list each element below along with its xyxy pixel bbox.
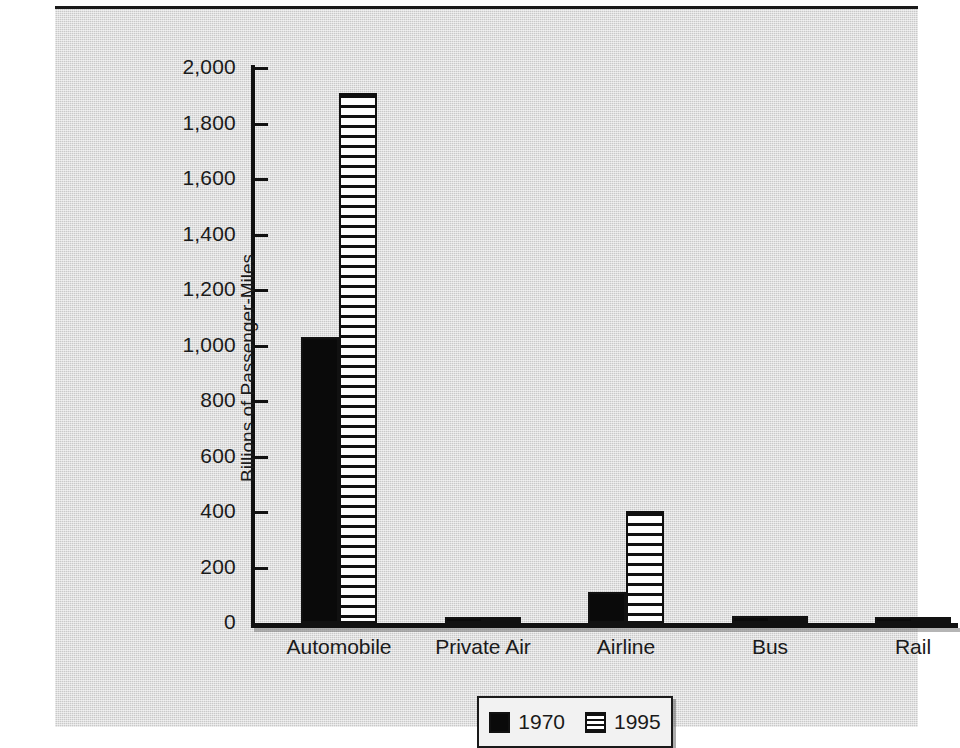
bar-rail-1995 bbox=[913, 617, 951, 623]
plot-area: 2,0001,8001,6001,4001,2001,0008006004002… bbox=[251, 68, 958, 623]
bar-bus-1970 bbox=[732, 616, 770, 623]
y-axis-tick-label: 1,800 bbox=[182, 110, 236, 134]
bar-group bbox=[301, 68, 377, 623]
x-axis-label-private-air: Private Air bbox=[403, 635, 563, 659]
legend-entry-1970: 1970 bbox=[489, 710, 565, 734]
x-axis-label-bus: Bus bbox=[690, 635, 850, 659]
chart-panel: 2,0001,8001,6001,4001,2001,0008006004002… bbox=[55, 6, 918, 727]
y-axis-tick-label: 1,600 bbox=[182, 166, 236, 190]
chart-legend: 19701995 bbox=[477, 696, 673, 748]
bar-bus-1995 bbox=[770, 616, 808, 623]
y-axis-tick-label: 1,000 bbox=[182, 332, 236, 356]
bar-group bbox=[875, 68, 951, 623]
legend-label: 1995 bbox=[614, 710, 661, 734]
x-axis-shadow bbox=[254, 628, 960, 632]
striped-swatch-icon bbox=[585, 712, 606, 733]
bar-automobile-1995 bbox=[339, 93, 377, 623]
y-axis-tick: 1,600 bbox=[255, 178, 268, 181]
bar-airline-1995 bbox=[626, 511, 664, 623]
y-axis-tick-label: 600 bbox=[200, 443, 236, 467]
bar-airline-1970 bbox=[588, 592, 626, 623]
legend-label: 1970 bbox=[518, 710, 565, 734]
y-axis-tick-label: 1,200 bbox=[182, 277, 236, 301]
y-axis-tick-label: 0 bbox=[224, 610, 236, 634]
y-axis-tick-label: 800 bbox=[200, 388, 236, 412]
bar-private-air-1995 bbox=[483, 617, 521, 623]
bar-group bbox=[588, 68, 664, 623]
bar-rail-1970 bbox=[875, 617, 913, 623]
y-axis-tick: 1,400 bbox=[255, 234, 268, 237]
bar-automobile-1970 bbox=[301, 337, 339, 623]
y-axis-tick-label: 200 bbox=[200, 554, 236, 578]
legend-entry-1995: 1995 bbox=[585, 710, 661, 734]
y-axis-title: Billions of Passenger-Miles bbox=[237, 254, 259, 482]
y-axis-tick-label: 1,400 bbox=[182, 221, 236, 245]
bar-group bbox=[445, 68, 521, 623]
y-axis-tick-label: 2,000 bbox=[182, 55, 236, 79]
y-axis-tick: 400 bbox=[255, 511, 268, 514]
bar-private-air-1970 bbox=[445, 617, 483, 623]
y-axis-tick: 1,800 bbox=[255, 123, 268, 126]
x-axis-label-automobile: Automobile bbox=[259, 635, 419, 659]
y-axis-tick-label: 400 bbox=[200, 499, 236, 523]
bar-group bbox=[732, 68, 808, 623]
x-axis-label-rail: Rail bbox=[833, 635, 960, 659]
y-axis-tick: 200 bbox=[255, 567, 268, 570]
x-axis-label-airline: Airline bbox=[546, 635, 706, 659]
solid-black-swatch-icon bbox=[489, 712, 510, 733]
y-axis-tick: 2,000 bbox=[255, 67, 268, 70]
